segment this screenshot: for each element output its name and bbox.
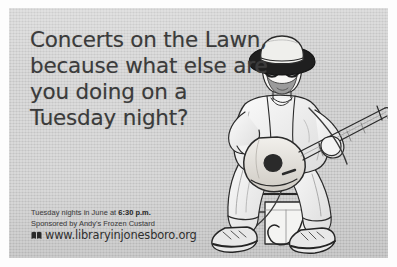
event-details: Tuesday nights in June at 6:30 p.m. Spon… [31,208,197,241]
schedule-prefix: Tuesday nights in June at [31,208,118,217]
headline-line-2: because what else are [30,53,280,79]
schedule-line: Tuesday nights in June at 6:30 p.m. [31,208,197,219]
headline-line-4: Tuesday night? [30,105,280,131]
headline: Concerts on the Lawn, because what else … [30,27,280,131]
headline-line-1: Concerts on the Lawn, [30,27,280,53]
poster-photo-area: Concerts on the Lawn, because what else … [9,8,388,258]
website-url[interactable]: www.libraryinjonesboro.org [45,230,197,241]
schedule-time: 6:30 p.m. [118,208,151,217]
website-row[interactable]: www.libraryinjonesboro.org [31,230,197,241]
poster-scan: Concerts on the Lawn, because what else … [0,0,397,267]
open-book-icon [31,231,42,240]
headline-line-3: you doing on a [30,79,280,105]
